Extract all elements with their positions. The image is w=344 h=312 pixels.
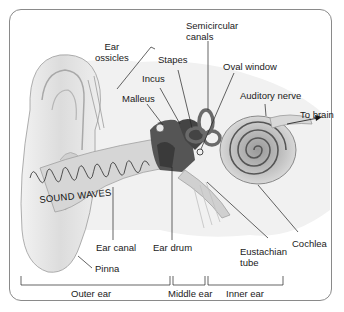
region-label-middle-ear: Middle ear — [168, 288, 212, 299]
label-stapes: Stapes — [158, 54, 188, 65]
label-ear-ossicles-line1: Ear — [95, 41, 129, 52]
label-cochlea: Cochlea — [292, 238, 327, 249]
label-semicircular-canals: Semicircular canals — [186, 20, 238, 42]
label-auditory-nerve: Auditory nerve — [240, 90, 301, 101]
label-incus: Incus — [142, 73, 165, 84]
label-semicircular-line1: Semicircular — [186, 20, 238, 31]
label-to-brain: To brain — [300, 109, 334, 120]
label-ear-drum: Ear drum — [153, 242, 192, 253]
label-eustachian-line2: tube — [240, 257, 287, 268]
label-semicircular-line2: canals — [186, 31, 238, 42]
ear-illustration — [0, 0, 344, 312]
label-pinna: Pinna — [95, 263, 119, 274]
label-eustachian-tube: Eustachian tube — [240, 246, 287, 268]
label-ear-ossicles-line2: ossicles — [95, 52, 129, 63]
region-label-inner-ear: Inner ear — [226, 288, 264, 299]
label-ear-canal: Ear canal — [96, 242, 136, 253]
label-malleus: Malleus — [122, 93, 155, 104]
label-eustachian-line1: Eustachian — [240, 246, 287, 257]
region-label-outer-ear: Outer ear — [71, 288, 111, 299]
cochlea-shape — [220, 116, 296, 184]
label-ear-ossicles: Ear ossicles — [95, 41, 129, 63]
label-oval-window: Oval window — [223, 61, 277, 72]
region-brackets — [21, 276, 283, 285]
